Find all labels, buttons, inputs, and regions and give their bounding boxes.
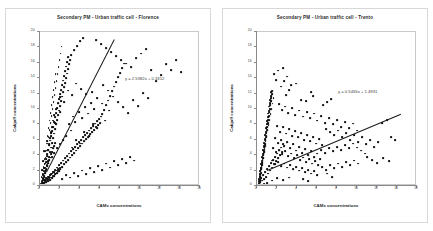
y-tick-label: 12 (31, 91, 35, 94)
scatter-point (307, 154, 309, 156)
scatter-point (267, 117, 269, 119)
x-tick-label: 4 (78, 187, 80, 190)
y-tick-mark (37, 108, 40, 109)
scatter-point (108, 110, 110, 112)
scatter-point (313, 156, 315, 158)
scatter-point (61, 96, 63, 98)
scatter-point (112, 96, 114, 98)
y-tick-label: 4 (250, 153, 252, 156)
scatter-point (99, 122, 101, 124)
x-tick-label: 10 (137, 187, 141, 190)
scatter-point (71, 154, 73, 156)
scatter-point (320, 115, 322, 117)
scatter-point (284, 150, 286, 152)
scatter-point (268, 110, 270, 112)
scatter-point (262, 159, 264, 161)
scatter-point (265, 127, 267, 129)
scatter-point (298, 146, 300, 148)
scatter-point (54, 122, 56, 124)
scatter-point (304, 148, 306, 150)
scatter-point (309, 117, 311, 119)
scatter-point (295, 166, 297, 168)
y-tick-label: 12 (248, 91, 252, 94)
scatter-point (275, 151, 277, 153)
y-tick-mark (37, 77, 40, 78)
scatter-point (266, 123, 268, 125)
scatter-point (65, 77, 67, 79)
scatter-point (55, 73, 57, 75)
scatter-point (59, 105, 61, 107)
scatter-point (117, 164, 119, 166)
y-tick-label: 20 (31, 29, 35, 32)
scatter-point (301, 152, 303, 154)
scatter-point (309, 140, 311, 142)
x-tick-label: 16 (414, 187, 418, 190)
plot-area-florence (39, 31, 199, 185)
scatter-point (59, 60, 61, 62)
scatter-point (135, 57, 137, 59)
scatter-point (357, 141, 359, 143)
scatter-point (165, 63, 167, 65)
scatter-point (60, 53, 62, 55)
scatter-point (291, 107, 293, 109)
scatter-point (320, 149, 322, 151)
scatter-point (328, 117, 330, 119)
scatter-point (117, 101, 119, 103)
scatter-point (259, 176, 261, 178)
scatter-point (268, 106, 270, 108)
scatter-point (132, 99, 134, 101)
scatter-point (260, 170, 262, 172)
scatter-point (103, 109, 105, 111)
scatter-point (100, 43, 102, 45)
scatter-point (286, 76, 288, 78)
y-tick-mark (37, 46, 40, 47)
scatter-point (88, 130, 90, 132)
y-tick-label: 6 (33, 137, 35, 140)
scatter-point (66, 155, 68, 157)
scatter-point (341, 166, 343, 168)
scatter-point (333, 134, 335, 136)
chart-title-trento: Secondary PM - Urban traffic cell - Tren… (223, 15, 427, 20)
scatter-point (147, 97, 149, 99)
scatter-point (321, 166, 323, 168)
scatter-point (371, 159, 373, 161)
scatter-point (140, 53, 142, 55)
scatter-point (388, 160, 390, 162)
scatter-point (50, 112, 52, 114)
y-axis-line-trento (256, 31, 257, 186)
scatter-point (48, 159, 50, 161)
x-tick-label: 6 (315, 187, 317, 190)
scatter-point (91, 131, 93, 133)
x-axis-title-florence: CAMx concentrations (39, 203, 199, 208)
scatter-point (52, 147, 54, 149)
scatter-point (264, 148, 266, 150)
scatter-point (105, 163, 107, 165)
scatter-point (66, 61, 68, 63)
y-tick-mark (37, 123, 40, 124)
scatter-point (64, 157, 66, 159)
x-tick-label: 12 (374, 187, 378, 190)
scatter-point (337, 130, 339, 132)
y-tick-label: 16 (31, 60, 35, 63)
y-axis-title-florence: Cabjaff concentrations (12, 84, 17, 132)
scatter-point (275, 79, 277, 81)
scatter-point (340, 149, 342, 151)
scatter-point (272, 103, 274, 105)
scatter-point (96, 120, 98, 122)
scatter-point (65, 66, 67, 68)
scatter-point (263, 154, 265, 156)
scatter-point (64, 82, 66, 84)
scatter-point (100, 116, 102, 118)
y-tick-mark (254, 108, 257, 109)
scatter-point (366, 156, 368, 158)
scatter-point (119, 72, 121, 74)
scatter-point (352, 123, 354, 125)
scatter-point (369, 139, 371, 141)
scatter-point (273, 97, 275, 99)
scatter-point (287, 112, 289, 114)
x-tick-label: 0 (38, 187, 40, 190)
scatter-point (80, 88, 82, 90)
scatter-point (302, 116, 304, 118)
scatter-point (45, 150, 47, 152)
scatter-point (90, 127, 92, 129)
